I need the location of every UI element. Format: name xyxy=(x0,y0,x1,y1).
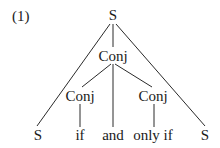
leaf-if: if xyxy=(75,127,84,143)
leaf-s-left: S xyxy=(34,127,42,143)
edge-conj-mid-to-conj-right xyxy=(115,64,152,87)
node-conj-right: Conj xyxy=(138,88,167,104)
edge-conj-mid-to-conj-left xyxy=(82,64,111,87)
edge-root-to-right-s xyxy=(116,24,205,126)
node-conj-mid: Conj xyxy=(98,48,127,64)
example-number: (1) xyxy=(12,8,30,24)
leaf-only-if: only if xyxy=(133,127,173,143)
syntax-tree-diagram: (1) S Conj Conj Conj S if and only if S xyxy=(0,0,220,148)
leaf-and: and xyxy=(102,127,124,143)
leaf-s-right: S xyxy=(201,127,209,143)
root-node-s: S xyxy=(109,7,117,23)
edge-root-to-left-s xyxy=(37,24,110,126)
node-conj-left: Conj xyxy=(65,88,94,104)
